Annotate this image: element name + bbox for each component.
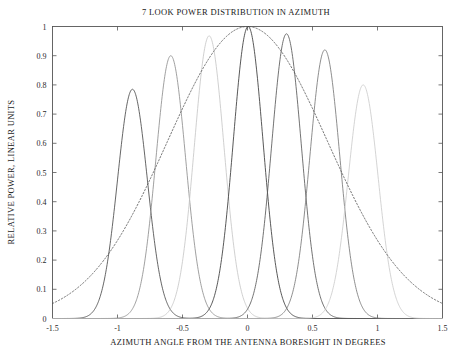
power-distribution-chart: 7 LOOK POWER DISTRIBUTION IN AZIMUTH -1.… <box>0 0 471 352</box>
x-tick-label: -1.5 <box>46 324 59 333</box>
y-tick-label: 0.5 <box>37 169 47 178</box>
y-tick-label: 0.6 <box>37 139 47 148</box>
beam-curve-look-2 <box>53 56 443 319</box>
y-tick-label: 0.7 <box>37 110 47 119</box>
beam-curves <box>53 27 443 319</box>
y-tick-label: 0.4 <box>37 198 47 207</box>
y-axis-ticks: 00.10.20.30.40.50.60.70.80.91 <box>37 23 443 324</box>
chart-title: 7 LOOK POWER DISTRIBUTION IN AZIMUTH <box>142 7 330 17</box>
beam-curve-look-3 <box>53 36 443 319</box>
beam-curve-look-6 <box>53 50 443 319</box>
y-tick-label: 0.9 <box>37 52 47 61</box>
beam-curve-look-5 <box>53 34 443 319</box>
y-tick-label: 0.2 <box>37 256 47 265</box>
x-axis-ticks: -1.5-1-0.500.511.5 <box>46 27 447 333</box>
x-tick-label: 0.5 <box>308 324 318 333</box>
y-tick-label: 0.8 <box>37 81 47 90</box>
beam-curve-envelope <box>53 27 443 304</box>
y-tick-label: 0.1 <box>37 285 47 294</box>
y-tick-label: 0 <box>43 315 47 324</box>
plot-frame <box>53 27 443 319</box>
beam-curve-look-7 <box>53 85 443 319</box>
y-axis-label: RELATIVE POWER, LINEAR UNITS <box>6 100 16 245</box>
x-axis-label: AZIMUTH ANGLE FROM THE ANTENNA BORESIGHT… <box>110 337 386 347</box>
x-tick-label: -0.5 <box>176 324 189 333</box>
x-tick-label: -1 <box>114 324 121 333</box>
y-tick-label: 1 <box>43 23 47 32</box>
beam-curve-look-4 <box>53 27 443 319</box>
x-tick-label: 1 <box>376 324 380 333</box>
beam-curve-look-1 <box>53 89 443 318</box>
x-tick-label: 1.5 <box>438 324 448 333</box>
x-tick-label: 0 <box>246 324 250 333</box>
y-tick-label: 0.3 <box>37 227 47 236</box>
